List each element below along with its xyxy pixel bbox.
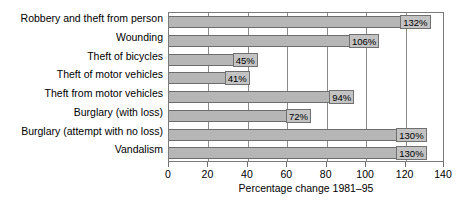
x-tick-120 xyxy=(405,162,406,167)
plot-area: 132% 106% 45% 41% 94% 72% 130% 1 xyxy=(168,12,444,162)
category-label-robbery-and-theft-from-person: Robbery and theft from person xyxy=(0,13,163,24)
category-label-theft-of-bicycles: Theft of bicycles xyxy=(0,51,163,62)
bar-value-label: 94% xyxy=(329,90,354,104)
category-label-burglary-attempt-with-no-loss: Burglary (attempt with no loss) xyxy=(0,126,163,137)
category-axis-labels: Robbery and theft from person Wounding T… xyxy=(0,12,167,162)
bar-vandalism xyxy=(169,147,425,159)
x-tick-0 xyxy=(168,162,169,167)
bar-wounding xyxy=(169,35,378,47)
bar-row: 41% xyxy=(169,69,443,88)
bar-chart: Robbery and theft from person Wounding T… xyxy=(0,0,468,206)
bar-value-label: 45% xyxy=(233,53,258,67)
x-tick-label-120: 120 xyxy=(396,168,414,180)
bar-row: 130% xyxy=(169,144,443,163)
x-tick-label-140: 140 xyxy=(434,168,452,180)
x-tick-20 xyxy=(207,162,208,167)
bar-robbery-and-theft-from-person xyxy=(169,16,429,28)
bar-value-label: 130% xyxy=(396,128,426,142)
x-tick-140 xyxy=(443,162,444,167)
bar-value-label: 132% xyxy=(400,15,430,29)
bar-row: 132% xyxy=(169,13,443,32)
x-tick-label-40: 40 xyxy=(241,168,253,180)
bar-burglary-attempt-with-no-loss xyxy=(169,129,425,141)
category-label-vandalism: Vandalism xyxy=(0,144,163,155)
bar-value-label: 130% xyxy=(396,146,426,160)
x-tick-label-0: 0 xyxy=(165,168,171,180)
x-axis-title: Percentage change 1981–95 xyxy=(168,182,444,194)
x-tick-label-20: 20 xyxy=(202,168,214,180)
x-tick-40 xyxy=(247,162,248,167)
bar-row: 72% xyxy=(169,107,443,126)
bar-row: 106% xyxy=(169,32,443,51)
x-tick-100 xyxy=(365,162,366,167)
category-label-theft-from-motor-vehicles: Theft from motor vehicles xyxy=(0,88,163,99)
x-tick-label-80: 80 xyxy=(320,168,332,180)
category-label-wounding: Wounding xyxy=(0,32,163,43)
x-tick-60 xyxy=(286,162,287,167)
bar-value-label: 41% xyxy=(225,71,250,85)
x-tick-80 xyxy=(326,162,327,167)
bar-row: 130% xyxy=(169,126,443,145)
category-label-burglary-with-loss: Burglary (with loss) xyxy=(0,107,163,118)
x-tick-label-100: 100 xyxy=(356,168,374,180)
x-tick-label-60: 60 xyxy=(280,168,292,180)
category-label-theft-of-motor-vehicles: Theft of motor vehicles xyxy=(0,69,163,80)
bar-theft-from-motor-vehicles xyxy=(169,91,354,103)
bar-row: 45% xyxy=(169,51,443,70)
bar-value-label: 106% xyxy=(349,34,379,48)
bar-value-label: 72% xyxy=(286,109,311,123)
bar-row: 94% xyxy=(169,88,443,107)
